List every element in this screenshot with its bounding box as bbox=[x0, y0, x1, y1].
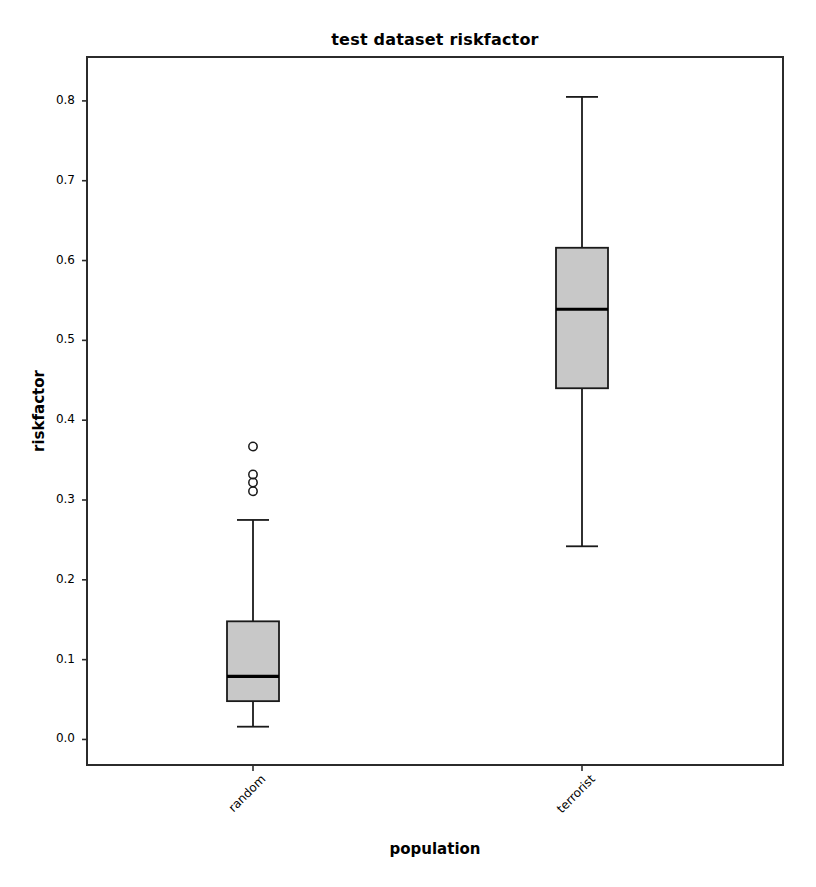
y-tick-label: 0.2 bbox=[29, 572, 75, 586]
outlier-marker bbox=[249, 487, 257, 495]
outlier-marker bbox=[249, 442, 257, 450]
boxplot-svg bbox=[0, 0, 816, 887]
y-tick-label: 0.0 bbox=[29, 731, 75, 745]
outlier-marker bbox=[249, 478, 257, 486]
figure-canvas: test dataset riskfactor riskfactor popul… bbox=[0, 0, 816, 887]
box-random bbox=[227, 442, 279, 726]
box-rect bbox=[227, 621, 279, 701]
y-tick-label: 0.5 bbox=[29, 332, 75, 346]
y-tick-label: 0.6 bbox=[29, 253, 75, 267]
plot-frame bbox=[87, 57, 783, 765]
outlier-marker bbox=[249, 470, 257, 478]
y-tick-label: 0.4 bbox=[29, 412, 75, 426]
box-rect bbox=[556, 248, 608, 388]
y-tick-label: 0.1 bbox=[29, 652, 75, 666]
y-tick-label: 0.7 bbox=[29, 173, 75, 187]
box-terrorist bbox=[556, 97, 608, 546]
y-tick-label: 0.3 bbox=[29, 492, 75, 506]
y-tick-label: 0.8 bbox=[29, 93, 75, 107]
